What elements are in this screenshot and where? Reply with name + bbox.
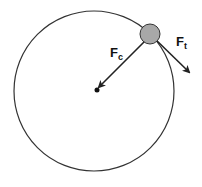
centripetal-force-arrow: [99, 36, 150, 87]
centripetal-force-label: Fc: [110, 45, 123, 62]
center-point: [95, 88, 100, 93]
tangential-force-label: Ft: [176, 34, 187, 51]
diagram-canvas: Fc Ft: [0, 0, 202, 187]
circular-motion-diagram: Fc Ft: [0, 0, 202, 187]
ball: [140, 24, 160, 44]
